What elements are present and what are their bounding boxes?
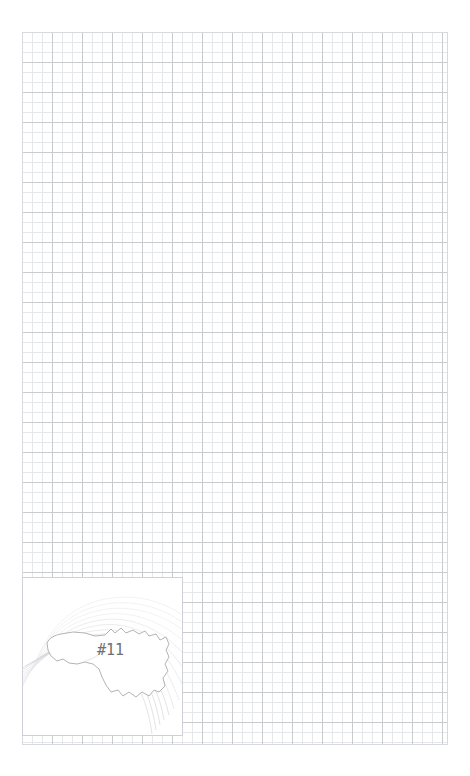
page-canvas: #11	[0, 0, 470, 776]
inset-label: #11	[97, 641, 124, 659]
contour-core-polygon	[47, 628, 169, 697]
